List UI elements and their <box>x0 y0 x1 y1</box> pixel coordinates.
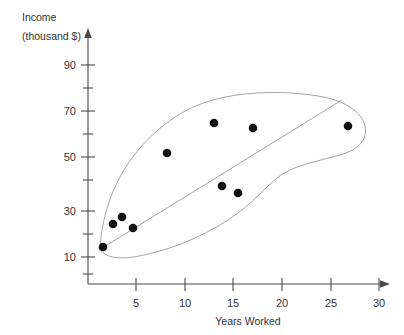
x-axis-arrow-icon <box>380 280 390 288</box>
x-tick-label-30: 30 <box>373 297 385 309</box>
data-point <box>99 243 108 252</box>
y-tick-label-10: 10 <box>64 251 76 263</box>
enclosing-ellipse <box>100 93 366 258</box>
x-tick-label-15: 15 <box>227 297 239 309</box>
data-point <box>218 182 227 191</box>
data-point <box>344 122 353 131</box>
data-point-group <box>99 119 353 252</box>
chart-canvas: 90 70 50 30 10 5 10 15 20 25 30 Income (… <box>0 0 404 335</box>
y-axis-arrow-icon <box>84 28 92 38</box>
x-tick-label-25: 25 <box>325 297 337 309</box>
y-axis-title-line2: (thousand $) <box>22 30 81 42</box>
x-tick-label-5: 5 <box>133 297 139 309</box>
data-point <box>163 149 172 158</box>
x-tick-label-10: 10 <box>179 297 191 309</box>
scatter-chart: 90 70 50 30 10 5 10 15 20 25 30 Income (… <box>0 0 404 335</box>
data-point <box>234 189 243 198</box>
data-point <box>118 213 127 222</box>
x-tick-label-20: 20 <box>276 297 288 309</box>
data-point <box>129 224 138 233</box>
data-point <box>109 220 118 229</box>
y-tick-label-30: 30 <box>64 205 76 217</box>
data-point <box>210 119 219 128</box>
data-point <box>249 124 258 133</box>
y-tick-label-90: 90 <box>64 59 76 71</box>
y-tick-label-70: 70 <box>64 105 76 117</box>
y-tick-label-50: 50 <box>64 151 76 163</box>
y-axis-title-line1: Income <box>22 11 57 23</box>
x-axis-title: Years Worked <box>215 315 281 327</box>
